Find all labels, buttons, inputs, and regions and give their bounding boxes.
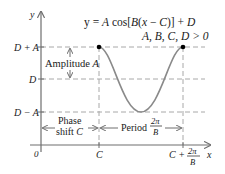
period-label: Period — [121, 122, 147, 133]
x-tick-label-c-plus: C + — [169, 149, 185, 160]
origin-label: 0 — [34, 149, 39, 159]
y-tick-label-mid: D — [28, 74, 37, 85]
x-tick-label-c: C — [96, 149, 103, 160]
amplitude-label: Amplitude A — [45, 58, 100, 69]
phase-shift-label-line2: shift C — [56, 126, 83, 137]
x-tick-frac-num: 2π — [188, 146, 197, 156]
y-tick-label-max: D + A — [13, 42, 40, 53]
y-tick-label-min: D − A — [13, 107, 40, 118]
cosine-diagram: y = A cos[B(x − C)] + D A, B, C, D > 0 y… — [0, 0, 225, 174]
x-tick-frac-den: B — [190, 157, 195, 167]
y-axis-label: y — [29, 9, 35, 20]
period-frac-num: 2π — [151, 116, 160, 126]
condition-text: A, B, C, D > 0 — [141, 30, 209, 43]
equation-text: y = A cos[B(x − C)] + D — [84, 16, 196, 29]
max-point-right — [181, 45, 186, 50]
phase-shift-label-line1: Phase — [58, 115, 82, 126]
period-frac-den: B — [153, 127, 158, 137]
max-point-left — [97, 45, 102, 50]
x-axis-label: x — [206, 149, 212, 160]
